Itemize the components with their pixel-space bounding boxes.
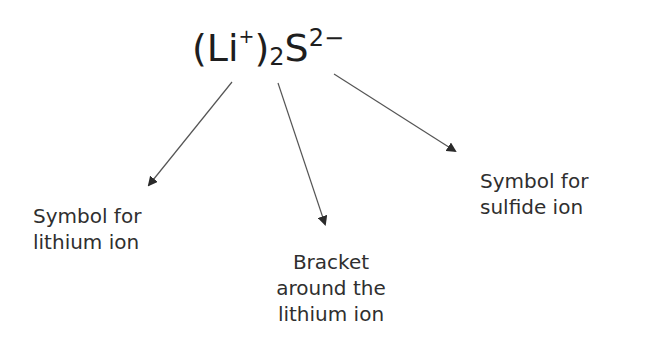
label-line: Symbol for (33, 203, 141, 229)
arrow-to-sulfide-label (334, 74, 455, 151)
arrow-to-bracket-label (278, 83, 325, 224)
bracket-label: Bracket around the lithium ion (264, 249, 398, 327)
label-line: Bracket (264, 249, 398, 275)
label-line: around the (264, 275, 398, 301)
sulfide-ion-label: Symbol for sulfide ion (480, 168, 588, 220)
label-line: lithium ion (33, 229, 141, 255)
label-line: Symbol for (480, 168, 588, 194)
label-line: lithium ion (264, 301, 398, 327)
lithium-ion-label: Symbol for lithium ion (33, 203, 141, 255)
arrow-to-lithium-label (149, 82, 232, 185)
label-line: sulfide ion (480, 194, 588, 220)
